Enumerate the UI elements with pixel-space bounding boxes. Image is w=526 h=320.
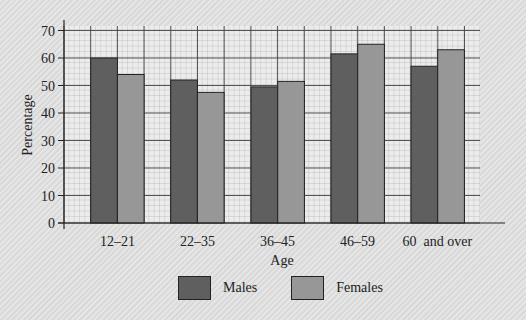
legend-swatch-males [178,276,211,300]
y-tick-label: 30 [41,134,55,149]
x-tick-label: 60 and over [403,234,473,249]
bar-females-2 [278,81,305,223]
y-tick-label: 70 [41,24,55,39]
bar-males-3 [331,54,358,223]
bar-females-1 [197,92,224,223]
bar-females-4 [438,50,465,223]
y-tick-label: 20 [41,161,55,176]
y-tick-label: 60 [41,51,55,66]
x-axis-title: Age [270,253,293,268]
x-tick-label: 36–45 [260,234,295,249]
y-tick-label: 10 [41,189,55,204]
bar-chart: 01020304050607012–2122–3536–4546–5960 an… [0,0,526,320]
legend-label-females: Females [336,280,383,296]
bar-females-0 [117,75,144,224]
bar-males-0 [91,58,118,223]
y-axis-title: Percentage [20,94,35,155]
legend-swatch-females [291,276,324,300]
bar-males-4 [411,66,438,223]
bar-females-3 [358,44,385,223]
legend: Males Females [178,276,417,300]
bar-males-2 [251,87,278,223]
x-tick-label: 12–21 [100,234,135,249]
legend-label-males: Males [223,280,257,296]
x-tick-label: 46–59 [340,234,375,249]
bar-males-1 [171,80,198,223]
y-tick-label: 50 [41,79,55,94]
y-tick-label: 0 [48,216,55,231]
y-tick-label: 40 [41,106,55,121]
x-tick-label: 22–35 [180,234,215,249]
